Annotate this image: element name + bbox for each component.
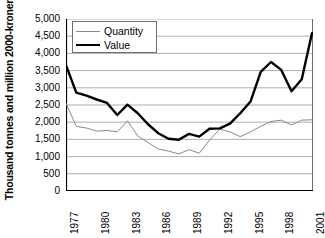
y-tick-label: 2,000: [35, 117, 60, 127]
legend-label-quantity: Quantity: [104, 26, 143, 37]
legend-swatch-quantity-icon: [76, 27, 100, 35]
y-tick-label: 500: [43, 169, 60, 179]
y-tick-label: 2,500: [35, 100, 60, 110]
y-tick-label: 0: [54, 186, 60, 196]
legend-item-value: Value: [76, 38, 153, 52]
y-tick-label: 5,000: [35, 14, 60, 24]
x-tick-label: 1998: [285, 212, 295, 234]
x-axis-tick-labels: 197719801983198619891992199519982001: [66, 196, 316, 238]
y-axis-tick-labels: 5,0004,5004,0003,5003,0002,5002,0001,500…: [16, 0, 60, 238]
y-tick-label: 3,000: [35, 83, 60, 93]
legend-label-value: Value: [104, 40, 130, 51]
y-axis-title-text: Thousand tonnes and million 2000-kroner: [3, 0, 15, 200]
x-tick-label: 2001: [316, 212, 325, 234]
legend: Quantity Value: [72, 21, 157, 53]
y-tick-label: 1,000: [35, 152, 60, 162]
y-tick-label: 3,500: [35, 66, 60, 76]
y-tick-label: 4,000: [35, 48, 60, 58]
series-line-quantity: [66, 103, 312, 154]
x-tick-label: 1977: [70, 212, 80, 234]
legend-item-quantity: Quantity: [76, 24, 153, 38]
x-tick-label: 1992: [224, 212, 234, 234]
x-tick-label: 1989: [193, 212, 203, 234]
line-chart: Thousand tonnes and million 2000-kroner …: [0, 0, 325, 238]
x-tick-label: 1995: [255, 212, 265, 234]
y-tick-label: 4,500: [35, 31, 60, 41]
x-tick-label: 1983: [132, 212, 142, 234]
legend-swatch-value-icon: [76, 41, 100, 49]
y-tick-label: 1,500: [35, 134, 60, 144]
x-tick-label: 1986: [162, 212, 172, 234]
x-tick-label: 1980: [101, 212, 111, 234]
